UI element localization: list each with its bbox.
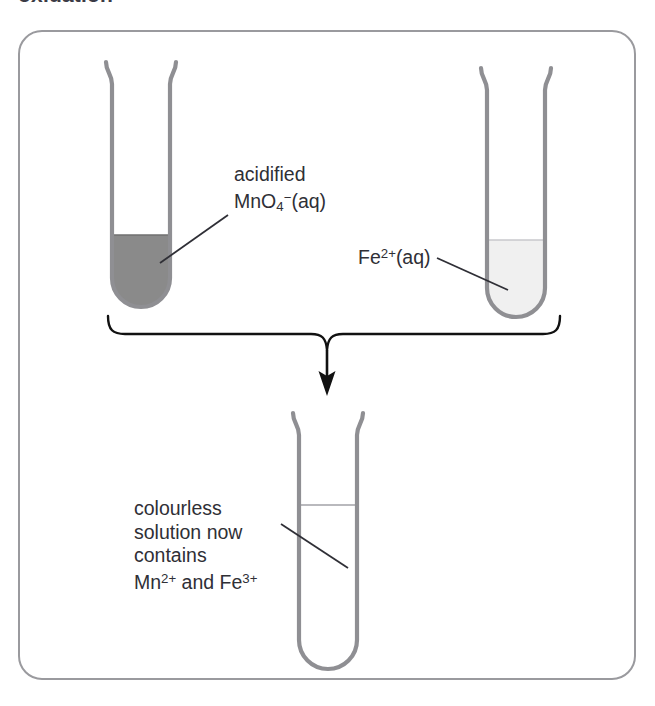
- product-tube: [293, 413, 363, 669]
- label-acidified-permanganate: acidified MnO4−(aq): [234, 163, 326, 218]
- permanganate-tube: [106, 62, 176, 310]
- product-label-line3: contains: [134, 544, 207, 566]
- label-acidified-line1: acidified: [234, 163, 306, 185]
- combination-brace: [108, 316, 560, 350]
- reaction-arrow: [319, 350, 336, 396]
- label-permanganate-formula: MnO4−(aq): [234, 190, 326, 212]
- product-label-line1: colourless: [134, 497, 222, 519]
- label-iron-two-aq: Fe2+(aq): [358, 242, 431, 269]
- product-label-line2: solution now: [134, 521, 242, 543]
- label-colourless-product: colourless solution now contains Mn2+ an…: [134, 497, 257, 595]
- product-label-line4: Mn2+ and Fe3+: [134, 571, 257, 593]
- product-liquid: [299, 505, 357, 635]
- diagram-page: oxidation: [0, 0, 655, 706]
- reaction-scheme-illustration: [0, 0, 655, 706]
